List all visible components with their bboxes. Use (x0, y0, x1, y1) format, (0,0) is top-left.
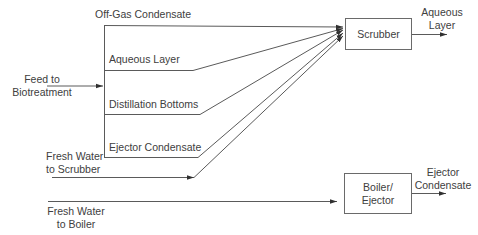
boiler-output-label: Ejector Condensate (412, 166, 474, 192)
feed-label-line2: Biotreatment (10, 86, 74, 99)
fresh-water-scrubber-line1: Fresh Water (46, 150, 103, 163)
off-gas-condensate-label: Off-Gas Condensate (95, 8, 191, 21)
fresh-water-boiler-label: Fresh Water to Boiler (47, 205, 105, 231)
boiler-output-line2: Condensate (412, 179, 474, 192)
fresh-water-scrubber-slant (194, 36, 343, 178)
boiler-label-line1: Boiler/ (363, 181, 393, 194)
scrubber-output-label: Aqueous Layer (418, 6, 466, 32)
distillation-bottoms-label: Distillation Bottoms (109, 98, 198, 111)
fresh-water-scrubber-line2: to Scrubber (46, 163, 103, 176)
boiler-output-line1: Ejector (412, 166, 474, 179)
feed-to-biotreatment-label: Feed to Biotreatment (10, 73, 74, 99)
fresh-water-boiler-line2: to Boiler (47, 218, 105, 231)
off-gas-line (104, 26, 343, 28)
scrubber-box: Scrubber (345, 18, 412, 50)
boiler-ejector-box: Boiler/ Ejector (344, 173, 412, 214)
ejector-condensate-label: Ejector Condensate (109, 141, 201, 154)
boiler-label-line2: Ejector (362, 194, 395, 207)
aqueous-layer-label: Aqueous Layer (109, 53, 180, 66)
fresh-water-boiler-line1: Fresh Water (47, 205, 105, 218)
fresh-water-scrubber-label: Fresh Water to Scrubber (46, 150, 103, 176)
feed-label-line1: Feed to (10, 73, 74, 86)
scrubber-output-line1: Aqueous (418, 6, 466, 19)
scrubber-output-line2: Layer (418, 19, 466, 32)
scrubber-label: Scrubber (357, 28, 400, 41)
